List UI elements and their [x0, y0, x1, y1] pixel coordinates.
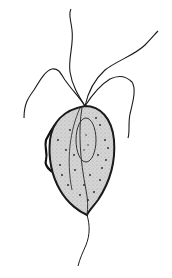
- posterior-flagellum: [78, 215, 89, 266]
- cell-body: [45, 106, 114, 215]
- illustration-canvas: [0, 0, 172, 278]
- protozoan-illustration: [0, 0, 172, 278]
